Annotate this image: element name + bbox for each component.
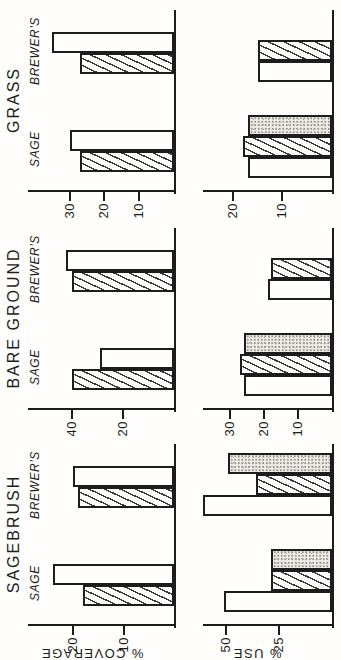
y-tick (72, 626, 74, 635)
x-axis (174, 228, 176, 412)
y-axis-caption: % COVERAGE (17, 643, 167, 660)
y-tick (278, 626, 280, 635)
bar-hatched-sage (271, 570, 332, 591)
bar-hatched-brewers (78, 487, 174, 508)
y-tick (232, 192, 234, 201)
y-tick-label: 30 (62, 203, 77, 231)
y-axis (28, 624, 176, 626)
y-axis (28, 190, 176, 192)
bar-open-sage (244, 375, 332, 396)
bar-hatched-brewers (271, 258, 332, 279)
group-label: SAGE (28, 104, 42, 194)
y-tick (225, 626, 227, 635)
bar-stippled-brewers (228, 453, 332, 474)
y-tick-label: 20 (115, 421, 130, 449)
y-tick (297, 410, 299, 419)
y-tick-label: 10 (131, 203, 146, 231)
bar-hatched-brewers (80, 53, 174, 74)
panel-title: GRASS (5, 0, 23, 200)
x-axis (174, 10, 176, 194)
y-tick-label: 25 (271, 637, 286, 660)
bar-open-brewers (66, 250, 174, 271)
bar-open-sage (53, 564, 174, 585)
group-label: SAGE (28, 538, 42, 628)
y-tick (69, 192, 71, 201)
bar-stippled-sage (248, 115, 332, 136)
panel-title: BARE GROUND (5, 218, 23, 418)
y-tick-label: 20 (225, 203, 240, 231)
group-label: SAGE (28, 322, 42, 412)
y-tick (138, 192, 140, 201)
y-tick-label: 10 (274, 203, 289, 231)
bar-hatched-brewers (72, 271, 174, 292)
y-tick-label: 20 (256, 421, 271, 449)
y-tick (281, 192, 283, 201)
y-tick-label: 50 (218, 637, 233, 660)
bar-open-brewers (258, 61, 332, 82)
bar-open-sage (224, 591, 332, 612)
y-axis-caption: % USE (182, 643, 332, 660)
x-axis (332, 10, 334, 194)
bar-hatched-brewers (258, 40, 332, 61)
y-tick (122, 410, 124, 419)
bar-open-brewers (203, 495, 332, 516)
panel-title: SAGEBRUSH (5, 434, 23, 634)
bar-hatched-sage (243, 136, 332, 157)
y-axis (203, 408, 334, 410)
y-axis (203, 624, 334, 626)
bar-open-brewers (52, 32, 174, 53)
y-tick (123, 626, 125, 635)
group-label: BREWER'S (28, 224, 42, 314)
y-tick-label: 40 (64, 421, 79, 449)
group-label: BREWER'S (28, 440, 42, 530)
x-axis (332, 444, 334, 628)
bar-hatched-sage (83, 585, 174, 606)
y-tick-label: 10 (290, 421, 305, 449)
bar-hatched-sage (240, 354, 332, 375)
bar-chart-figure: % COVERAGE1020SAGEBRUSHSAGEBREWER'S2040B… (0, 0, 341, 660)
x-axis (332, 228, 334, 412)
y-tick (263, 410, 265, 419)
x-axis (174, 444, 176, 628)
y-axis (203, 190, 334, 192)
y-tick-label: 20 (96, 203, 111, 231)
bar-hatched-brewers (256, 474, 332, 495)
bar-open-sage (100, 348, 174, 369)
y-axis (28, 408, 176, 410)
bar-stippled-sage (244, 333, 332, 354)
bar-open-brewers (73, 466, 174, 487)
bar-open-sage (70, 130, 174, 151)
figure-viewport: % COVERAGE1020SAGEBRUSHSAGEBREWER'S2040B… (0, 0, 341, 660)
bar-stippled-sage (271, 549, 332, 570)
bar-hatched-sage (72, 369, 174, 390)
group-label: BREWER'S (28, 6, 42, 96)
y-tick-label: 30 (222, 421, 237, 449)
bar-hatched-sage (80, 151, 174, 172)
y-tick (229, 410, 231, 419)
y-tick-label: 20 (65, 637, 80, 660)
bar-open-brewers (268, 279, 333, 300)
y-tick-label: 10 (116, 637, 131, 660)
y-tick (71, 410, 73, 419)
y-tick (103, 192, 105, 201)
bar-open-sage (248, 157, 332, 178)
